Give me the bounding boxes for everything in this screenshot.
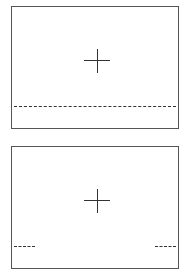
crosshair-vertical-stroke — [97, 49, 98, 73]
dashed-guide-line-full — [14, 106, 176, 107]
crosshair-vertical-stroke — [97, 189, 98, 213]
top-panel — [11, 6, 179, 129]
crosshair-icon — [84, 189, 110, 213]
bottom-panel — [11, 146, 179, 269]
dashed-guide-segment-left — [14, 246, 35, 247]
crosshair-icon — [84, 49, 110, 73]
dashed-guide-segment-right — [155, 246, 176, 247]
